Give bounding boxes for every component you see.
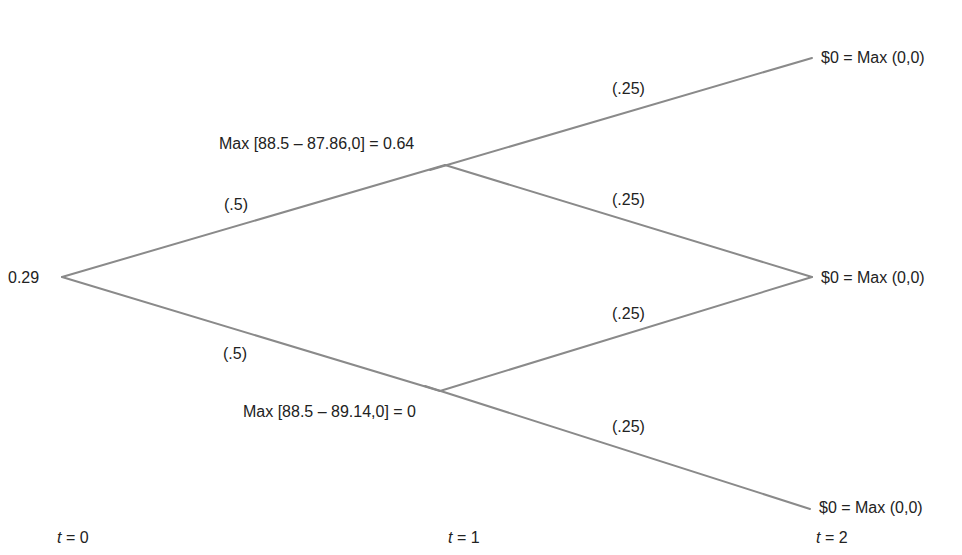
prob-down-up: (.25) [612,306,645,322]
leaf-label-bottom: $0 = Max (0,0) [819,500,923,516]
prob-root-down: (.5) [223,346,247,362]
prob-up-down: (.25) [612,192,645,208]
time-label-t2: t = 2 [816,530,848,546]
prob-down-down: (.25) [612,419,645,435]
node-t1-up-label: Max [88.5 – 87.86,0] = 0.64 [219,136,414,152]
time-label-t1: t = 1 [448,530,480,546]
node-t1-down-label: Max [88.5 – 89.14,0] = 0 [243,404,416,420]
time-eq: = 0 [61,529,88,546]
binomial-tree-lines [0,0,962,555]
branch-root-up [62,165,445,277]
leaf-label-top: $0 = Max (0,0) [821,50,925,66]
prob-up-up: (.25) [612,81,645,97]
branch-up-up [430,58,812,170]
branch-up-down [445,165,812,277]
time-eq: = 1 [452,529,479,546]
branch-down-down [425,386,810,509]
root-value: 0.29 [8,270,39,286]
leaf-label-middle: $0 = Max (0,0) [821,270,925,286]
branch-down-up [440,277,812,391]
branch-root-down [62,277,440,391]
time-label-t0: t = 0 [57,530,89,546]
prob-root-up: (.5) [224,197,248,213]
time-eq: = 2 [820,529,847,546]
